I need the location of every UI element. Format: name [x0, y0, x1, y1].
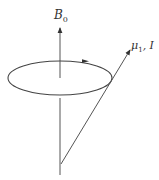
field-label: B0	[54, 9, 68, 24]
moment-vector	[61, 50, 130, 164]
precession-diagram	[0, 0, 159, 180]
orbit-direction-arrow-icon	[82, 59, 89, 63]
field-label-sub: 0	[63, 15, 68, 24]
moment-label-extra: , I	[143, 39, 154, 52]
field-label-main: B	[54, 8, 63, 22]
moment-label: μ1, I	[131, 40, 154, 54]
